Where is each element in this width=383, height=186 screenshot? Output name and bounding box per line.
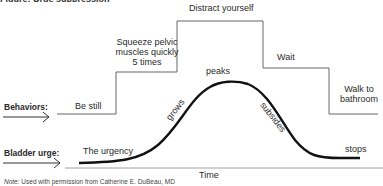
urge-phase-top: peaks	[206, 66, 230, 76]
behavior-walk-line-1: Walk to	[335, 84, 383, 94]
behavior-distract-yourself: Distract yourself	[189, 3, 254, 13]
note-prefix: Note:	[4, 178, 20, 185]
behavior-walk-to-bathroom: Walk to bathroom	[335, 84, 383, 104]
figure-title-partial: Figure: Urge suppression	[0, 0, 110, 2]
time-axis-label: Time	[199, 170, 219, 180]
behavior-be-still: Be still	[75, 101, 102, 111]
behaviors-arrow-icon	[3, 112, 49, 122]
urge-phase-end: stops	[345, 144, 367, 154]
behavior-walk-line-2: bathroom	[335, 94, 383, 104]
urge-suppression-diagram: Figure: Urge suppression Be still Squeez…	[0, 0, 383, 186]
behaviors-row-label: Behaviors:	[4, 102, 48, 112]
behavior-squeeze-line-2: muscles quickly	[104, 47, 190, 57]
behavior-squeeze-pelvic: Squeeze pelvic muscles quickly 5 times	[104, 37, 190, 67]
behavior-squeeze-line-3: 5 times	[104, 57, 190, 67]
urge-phase-start: The urgency	[83, 146, 133, 156]
permission-note: Note: Used with permission from Catherin…	[4, 177, 175, 186]
behavior-squeeze-line-1: Squeeze pelvic	[104, 37, 190, 47]
behavior-wait: Wait	[277, 52, 295, 62]
bladder-urge-arrow-icon	[3, 158, 60, 168]
note-text: Used with permission from Catherine E. D…	[20, 178, 175, 185]
diagram-graphics	[0, 0, 383, 186]
bladder-urge-row-label: Bladder urge:	[4, 148, 59, 158]
